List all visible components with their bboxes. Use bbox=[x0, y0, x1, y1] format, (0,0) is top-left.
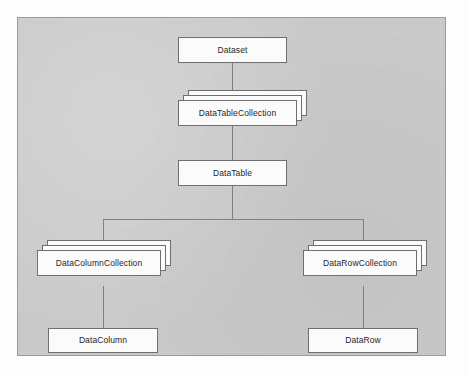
connector-datatable-trunk bbox=[232, 186, 233, 219]
node-datarowcollection-label: DataRowCollection bbox=[303, 250, 417, 276]
node-datacolumn[interactable]: DataColumn bbox=[48, 328, 158, 353]
diagram-canvas: Dataset DataTableCollection DataTable Da… bbox=[0, 0, 466, 376]
node-datatable[interactable]: DataTable bbox=[178, 160, 287, 186]
connector-datatablecollection-to-datatable bbox=[232, 123, 233, 160]
connector-datarowcollection-to-datarow bbox=[363, 286, 364, 328]
node-datacolumncollection-label: DataColumnCollection bbox=[37, 250, 161, 276]
node-datatablecollection-label: DataTableCollection bbox=[178, 100, 297, 126]
node-datatablecollection[interactable]: DataTableCollection bbox=[178, 100, 297, 126]
diagram-panel: Dataset DataTableCollection DataTable Da… bbox=[17, 17, 446, 356]
node-datarow[interactable]: DataRow bbox=[308, 328, 418, 353]
node-datacolumncollection[interactable]: DataColumnCollection bbox=[37, 250, 161, 276]
connector-datacolumncollection-to-datacolumn bbox=[103, 286, 104, 328]
connector-branch-bar bbox=[103, 219, 363, 220]
node-dataset[interactable]: Dataset bbox=[178, 37, 287, 63]
node-datarowcollection[interactable]: DataRowCollection bbox=[303, 250, 417, 276]
